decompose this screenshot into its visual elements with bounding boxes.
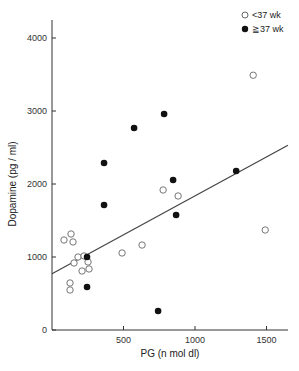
legend-filled-circle-icon (242, 26, 248, 32)
point-37wk-plus (155, 308, 162, 315)
point-under-37wk (250, 72, 256, 78)
y-tick-label: 1000 (27, 252, 47, 262)
point-37wk-plus (101, 202, 108, 209)
y-tick-label: 2000 (27, 179, 47, 189)
point-37wk-plus (170, 177, 177, 184)
point-37wk-plus (84, 284, 91, 291)
legend: <37 wk ≧37 wk (242, 10, 284, 34)
point-under-37wk (61, 237, 67, 243)
point-under-37wk (67, 287, 73, 293)
point-under-37wk (79, 268, 85, 274)
x-tick-label: 1000 (185, 335, 205, 345)
y-tick-label: 3000 (27, 106, 47, 116)
point-under-37wk (71, 260, 77, 266)
point-under-37wk (75, 254, 81, 260)
point-37wk-plus (131, 125, 138, 132)
scatter-chart: 01000200030004000 50010001500 PG (n mol … (0, 0, 299, 371)
point-under-37wk (262, 227, 268, 233)
data-points (61, 72, 269, 314)
point-under-37wk (175, 193, 181, 199)
y-tick-label: 4000 (27, 33, 47, 43)
point-37wk-plus (101, 160, 108, 167)
axes (52, 20, 288, 330)
y-tick-label: 0 (42, 325, 47, 335)
x-tick-label: 1500 (256, 335, 276, 345)
point-under-37wk (70, 239, 76, 245)
point-under-37wk (160, 187, 166, 193)
legend-label-37-plus: ≧37 wk (252, 24, 284, 34)
point-37wk-plus (161, 111, 168, 118)
point-under-37wk (67, 280, 73, 286)
legend-open-circle-icon (242, 12, 248, 18)
point-under-37wk (86, 266, 92, 272)
y-axis-title: Dopamine (pg / ml) (7, 141, 18, 226)
point-37wk-plus (84, 254, 91, 261)
legend-label-under-37: <37 wk (252, 10, 281, 20)
x-axis-title: PG (n mol dl) (141, 348, 200, 359)
point-under-37wk (119, 250, 125, 256)
x-tick-label: 500 (116, 335, 131, 345)
x-ticks: 50010001500 (116, 326, 277, 345)
point-37wk-plus (173, 212, 180, 219)
point-under-37wk (68, 231, 74, 237)
point-37wk-plus (233, 168, 240, 175)
point-under-37wk (139, 242, 145, 248)
